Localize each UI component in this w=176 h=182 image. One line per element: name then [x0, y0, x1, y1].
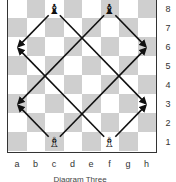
diagram-caption: Diagram Three — [0, 175, 160, 182]
rank-label-4: 4 — [163, 80, 173, 90]
arrow-f1-a6 — [19, 49, 105, 137]
arrow-c1-a3 — [19, 106, 49, 137]
file-label-a: a — [8, 159, 26, 169]
arrow-layer — [0, 0, 176, 182]
file-label-g: g — [119, 159, 137, 169]
arrow-f1-h3 — [115, 106, 145, 137]
rank-label-6: 6 — [163, 42, 173, 52]
file-label-h: h — [138, 159, 156, 169]
file-label-c: c — [45, 159, 63, 169]
arrow-c1-h6 — [60, 49, 146, 137]
white-bishop-icon: ♗ — [101, 135, 119, 149]
arrow-f8-h6 — [115, 15, 145, 46]
arrow-c8-a6 — [19, 15, 49, 46]
rank-label-7: 7 — [163, 23, 173, 33]
file-label-b: b — [27, 159, 45, 169]
file-label-e: e — [82, 159, 100, 169]
arrow-c8-h3 — [60, 15, 146, 103]
rank-label-8: 8 — [163, 4, 173, 14]
rank-label-2: 2 — [163, 118, 173, 128]
rank-label-1: 1 — [163, 137, 173, 147]
arrow-f8-a3 — [19, 15, 105, 103]
rank-label-5: 5 — [163, 61, 173, 71]
black-bishop-icon: ♝ — [45, 2, 63, 16]
rank-label-3: 3 — [163, 99, 173, 109]
white-bishop-icon: ♗ — [45, 135, 63, 149]
file-label-f: f — [101, 159, 119, 169]
black-bishop-icon: ♝ — [101, 2, 119, 16]
file-label-d: d — [64, 159, 82, 169]
